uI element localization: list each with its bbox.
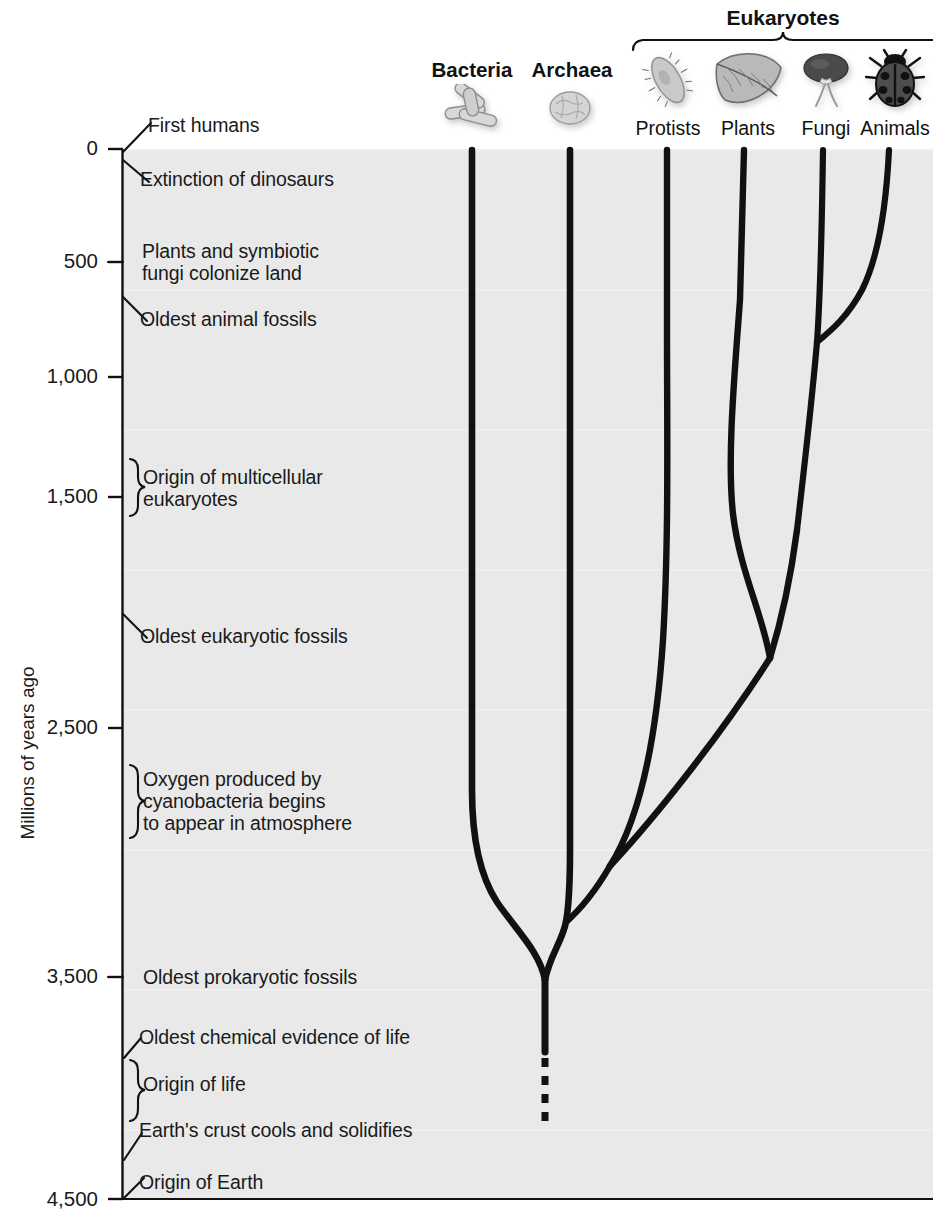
axis-tick-label-0: 0	[18, 136, 98, 160]
branch-animals	[817, 150, 889, 342]
axis-tick-label-1500: 1,500	[8, 484, 98, 508]
phylogenetic-tree	[472, 150, 889, 1122]
taxon-label-fungi: Fungi	[802, 117, 851, 140]
event-label-oxygen-cyanobacteria: Oxygen produced by cyanobacteria begins …	[143, 768, 352, 835]
axis-tick-label-2500: 2,500	[8, 715, 98, 739]
branch-fungi-animal-stem	[770, 530, 797, 658]
leader-first-humans	[123, 123, 151, 152]
taxon-label-plants: Plants	[721, 117, 775, 140]
branch-protists	[610, 150, 667, 866]
taxon-label-bacteria: Bacteria	[432, 58, 513, 82]
branch-plants	[731, 150, 770, 658]
event-label-extinction-of-dinosaurs: Extinction of dinosaurs	[140, 168, 334, 190]
taxon-label-protists: Protists	[635, 117, 700, 140]
eukaryotes-group-label: Eukaryotes	[726, 6, 839, 30]
taxon-label-archaea: Archaea	[532, 58, 613, 82]
y-axis-title: Millions of years ago	[17, 643, 39, 863]
archaea-cell-icon	[546, 86, 594, 128]
axis-tick-label-500: 500	[18, 249, 98, 273]
event-label-plants-colonize-land: Plants and symbiotic fungi colonize land	[142, 240, 319, 284]
axis-tick-label-1000: 1,000	[8, 364, 98, 388]
event-label-first-humans: First humans	[148, 114, 260, 136]
phylogenetic-timeline-figure: Millions of years ago Eukaryotes 0 500 1…	[0, 0, 933, 1215]
taxon-label-animals: Animals	[860, 117, 929, 140]
axis-tick-label-3500: 3,500	[8, 964, 98, 988]
bacteria-rods-icon	[439, 84, 505, 130]
axis-tick-label-4500: 4,500	[8, 1187, 98, 1211]
branch-bacteria	[472, 150, 545, 980]
ladybug-icon	[865, 48, 925, 110]
event-label-earths-crust: Earth's crust cools and solidifies	[139, 1119, 412, 1141]
paramecium-icon	[641, 50, 695, 110]
event-label-oldest-chemical-evidence: Oldest chemical evidence of life	[139, 1026, 410, 1048]
event-label-oldest-animal-fossils: Oldest animal fossils	[140, 308, 317, 330]
event-label-oldest-prokaryotic: Oldest prokaryotic fossils	[143, 966, 357, 988]
mushroom-icon	[798, 48, 854, 110]
leaf-icon	[711, 48, 785, 110]
branch-crown-eukaryote-stem	[610, 658, 770, 866]
branch-archaea	[545, 150, 570, 980]
event-label-origin-of-life: Origin of life	[143, 1073, 246, 1095]
event-label-origin-multicellular: Origin of multicellular eukaryotes	[143, 466, 323, 510]
event-label-oldest-eukaryotic: Oldest eukaryotic fossils	[140, 625, 348, 647]
event-label-origin-of-earth: Origin of Earth	[139, 1171, 263, 1193]
